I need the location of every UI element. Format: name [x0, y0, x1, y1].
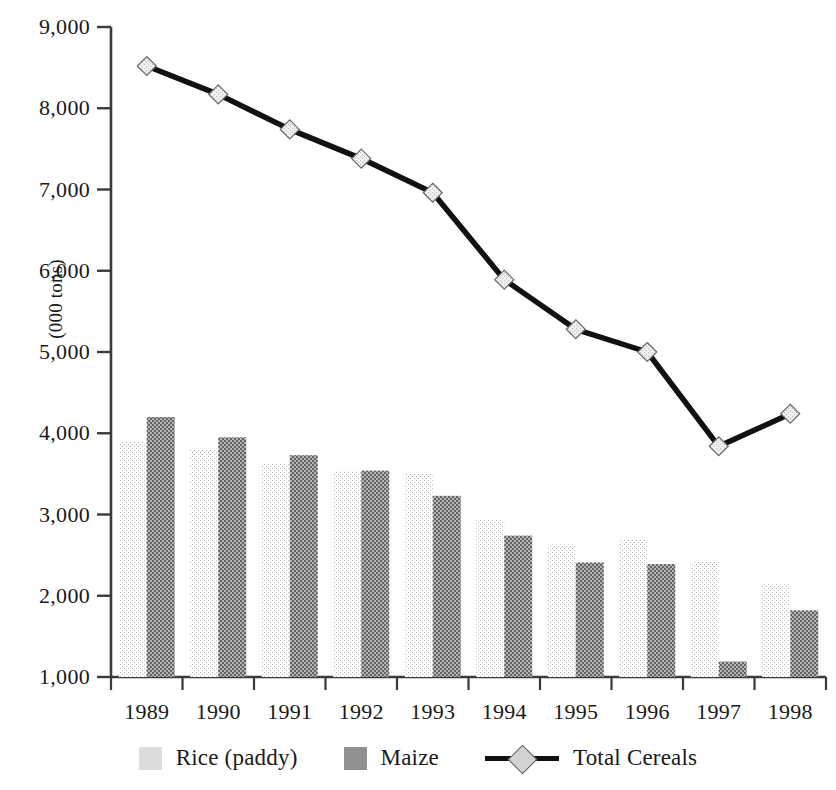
- x-axis-tick-label: 1996: [625, 700, 670, 724]
- bar-maize: [790, 610, 818, 677]
- legend-item-total-cereals[interactable]: Total Cereals: [485, 745, 697, 771]
- line-marker-diamond-icon: [781, 404, 800, 423]
- line-marker-diamond-icon: [352, 149, 371, 168]
- legend-label-total-cereals: Total Cereals: [573, 745, 697, 771]
- bar-maize: [218, 437, 246, 677]
- legend-label-rice: Rice (paddy): [176, 745, 298, 771]
- bar-rice: [548, 545, 576, 677]
- bar-maize: [504, 536, 532, 677]
- bar-rice: [762, 584, 790, 677]
- chart-figure: (000 tons) 1,0002,0003,0004,0005,0006,00…: [0, 0, 836, 790]
- x-axis-tick-label: 1991: [267, 700, 312, 724]
- x-axis-tick-label: 1992: [339, 700, 384, 724]
- bar-maize: [576, 562, 604, 677]
- bar-maize: [147, 417, 175, 677]
- legend-swatch-maize-icon: [344, 747, 367, 770]
- bar-rice: [405, 474, 433, 677]
- legend-item-rice[interactable]: Rice (paddy): [139, 745, 298, 771]
- bar-rice: [476, 519, 504, 677]
- legend-label-maize: Maize: [381, 745, 439, 771]
- bar-maize: [433, 496, 461, 677]
- x-axis-tick-label: 1993: [410, 700, 455, 724]
- bar-rice: [190, 449, 218, 677]
- bar-maize: [290, 455, 318, 677]
- legend-item-maize[interactable]: Maize: [344, 745, 439, 771]
- line-total-cereals: [147, 66, 791, 446]
- x-axis-tick-label: 1995: [553, 700, 598, 724]
- chart-legend: Rice (paddy) Maize Total Cereals: [0, 745, 836, 771]
- bar-rice: [262, 463, 290, 677]
- bar-rice: [119, 442, 147, 677]
- bar-maize: [719, 662, 747, 677]
- x-axis-tick-label: 1997: [696, 700, 741, 724]
- bar-maize: [361, 471, 389, 677]
- bar-maize: [647, 564, 675, 677]
- x-axis-tick-label: 1989: [124, 700, 169, 724]
- x-axis-tick-label: 1990: [196, 700, 241, 724]
- bar-rice: [619, 540, 647, 677]
- line-marker-diamond-icon: [137, 57, 156, 76]
- line-marker-diamond-icon: [280, 120, 299, 139]
- line-marker-diamond-icon: [209, 85, 228, 104]
- legend-line-diamond-icon: [485, 747, 559, 770]
- bar-rice: [333, 471, 361, 677]
- bar-rice: [691, 562, 719, 677]
- x-axis-tick-label: 1998: [768, 700, 813, 724]
- legend-swatch-rice-icon: [139, 747, 162, 770]
- x-axis-tick-label: 1994: [482, 700, 527, 724]
- plot-area: [0, 0, 836, 790]
